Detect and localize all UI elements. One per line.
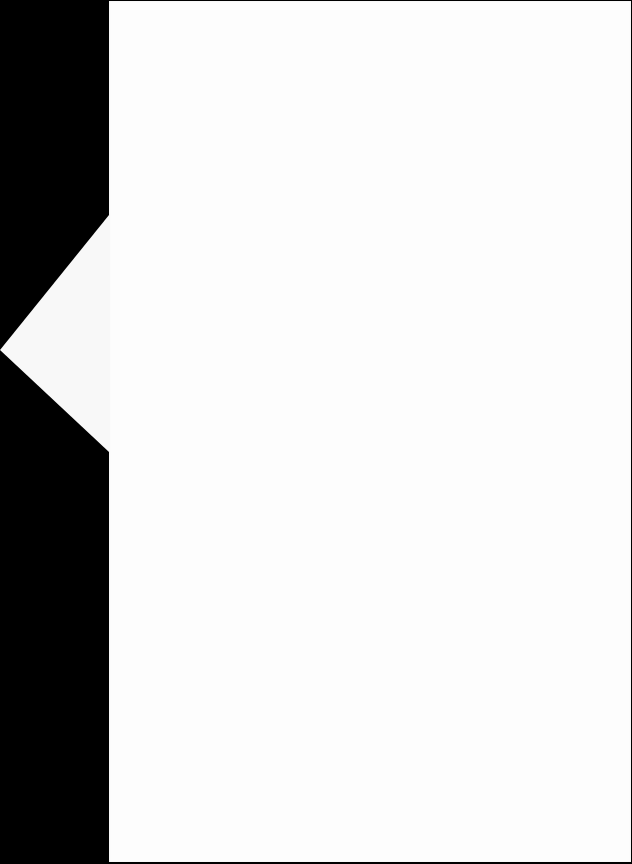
blank-paper-sheet [109,1,631,862]
page-text [109,1,110,2]
